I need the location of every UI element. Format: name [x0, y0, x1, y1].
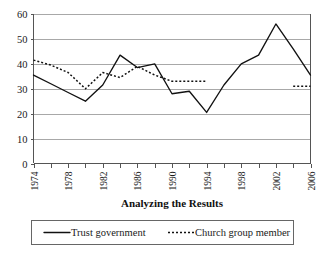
series-line-1 [34, 24, 311, 112]
y-tick-label: 60 [17, 9, 28, 20]
y-tick-label: 10 [17, 134, 28, 145]
x-tick-label: 2006 [307, 171, 317, 190]
x-tick-label: 1986 [133, 171, 143, 190]
chart-legend: Trust governmentChurch group member [32, 221, 294, 245]
x-tick-labels-group: 197419781982198619901994199820022006 [30, 171, 317, 190]
y-tick-label: 40 [17, 59, 28, 70]
x-tick-label: 2002 [272, 171, 282, 190]
gridlines-group [34, 15, 311, 140]
x-tick-label: 1978 [64, 171, 74, 190]
x-tick-label: 1974 [30, 171, 40, 190]
x-tick-group [35, 164, 312, 168]
x-tick-label: 1998 [237, 171, 247, 190]
x-tick-label: 1994 [203, 171, 213, 190]
legend-label-2: Church group member [195, 227, 291, 238]
x-tick-label: 1990 [168, 171, 178, 190]
chart-canvas: 0102030405060 19741978198219861990199419… [0, 0, 327, 256]
y-tick-label: 20 [17, 109, 28, 120]
legend-label-1: Trust government [71, 227, 146, 238]
y-tick-labels-group: 0102030405060 [17, 9, 28, 170]
line-chart: 0102030405060 19741978198219861990199419… [0, 0, 327, 256]
x-tick-label: 1982 [99, 171, 109, 190]
y-tick-label: 50 [17, 34, 28, 45]
series-group [34, 24, 311, 112]
x-axis-title: Analyzing the Results [121, 197, 224, 209]
y-tick-label: 0 [22, 159, 27, 170]
y-tick-label: 30 [17, 84, 28, 95]
